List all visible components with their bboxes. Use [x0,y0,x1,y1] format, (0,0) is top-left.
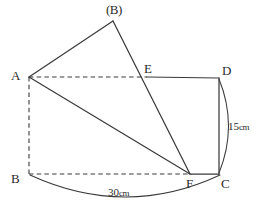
vertex-label-A: A [11,69,20,82]
vertex-label-B-prime: (B) [106,3,122,16]
vertex-label-F: F [186,177,193,190]
vertex-label-C: C [221,177,230,190]
vertex-label-B: B [11,172,20,185]
solid-edge-group [29,21,219,174]
vertex-label-D: D [222,64,231,77]
geometry-figure: A (B) E D F C B 15cm 30cm [0,0,264,208]
edge-A-to-Bprime [29,21,113,77]
edge-E-to-D [147,77,219,78]
dimension-label-15cm: 15cm [228,121,249,133]
dimension-label-30cm: 30cm [108,187,129,199]
vertex-label-E: E [144,62,152,75]
